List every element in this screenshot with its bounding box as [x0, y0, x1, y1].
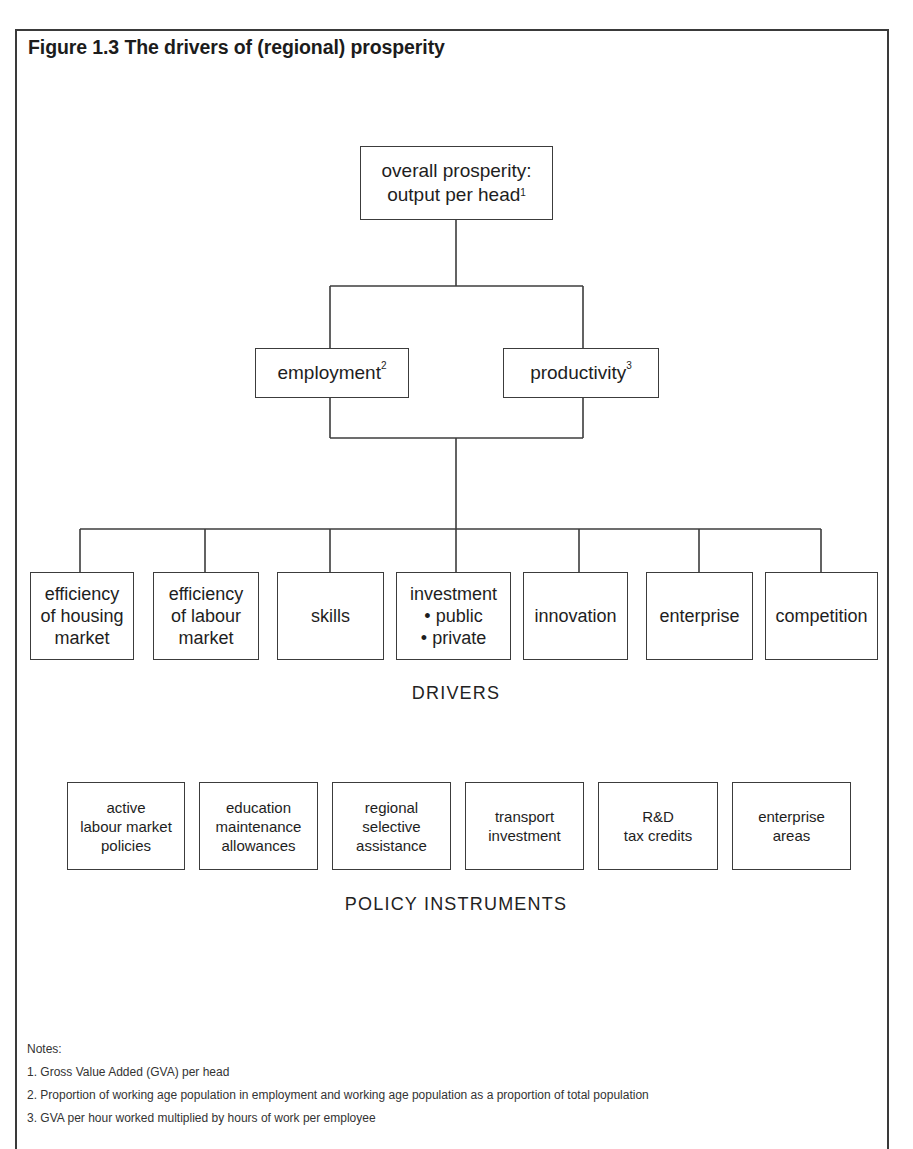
driver-line: investment — [410, 583, 497, 605]
driver-labour-market-box: efficiency of labour market — [153, 572, 259, 660]
footnote-ref-3: 3 — [626, 360, 632, 371]
employment-label: employment — [277, 362, 381, 383]
note-3: 3. GVA per hour worked multiplied by hou… — [27, 1109, 649, 1132]
policy-line: maintenance — [216, 817, 302, 836]
policy-line: active — [106, 798, 145, 817]
policy-line: investment — [488, 826, 561, 845]
policy-line: policies — [101, 836, 151, 855]
policy-line: regional — [365, 798, 418, 817]
driver-investment-box: investment • public • private — [396, 572, 511, 660]
driver-line: efficiency — [169, 583, 244, 605]
note-1: 1. Gross Value Added (GVA) per head — [27, 1063, 649, 1086]
footnote-ref-2: 2 — [381, 360, 387, 371]
policy-line: R&D — [642, 807, 674, 826]
drivers-label: DRIVERS — [356, 683, 556, 704]
overall-prosperity-box: overall prosperity: output per head1 — [360, 146, 553, 220]
driver-housing-market-box: efficiency of housing market — [30, 572, 134, 660]
driver-line: • public — [424, 605, 482, 627]
driver-line: innovation — [534, 605, 616, 627]
policy-line: enterprise — [758, 807, 825, 826]
driver-line: enterprise — [659, 605, 739, 627]
employment-box: employment2 — [255, 348, 409, 398]
driver-skills-box: skills — [277, 572, 384, 660]
policy-transport-investment-box: transport investment — [465, 782, 584, 870]
driver-line: of housing — [40, 605, 123, 627]
footnote-ref-1: 1 — [520, 187, 526, 198]
policy-line: areas — [773, 826, 811, 845]
policy-rd-tax-credits-box: R&D tax credits — [598, 782, 718, 870]
policy-active-labour-market-box: active labour market policies — [67, 782, 185, 870]
policy-line: allowances — [221, 836, 295, 855]
driver-competition-box: competition — [765, 572, 878, 660]
policy-line: tax credits — [624, 826, 692, 845]
policy-education-maintenance-box: education maintenance allowances — [199, 782, 318, 870]
driver-enterprise-box: enterprise — [646, 572, 753, 660]
top-box-line1: overall prosperity: — [382, 159, 532, 183]
driver-line: market — [178, 627, 233, 649]
policy-instruments-label: POLICY INSTRUMENTS — [306, 894, 606, 915]
policy-line: assistance — [356, 836, 427, 855]
policy-line: education — [226, 798, 291, 817]
policy-regional-selective-box: regional selective assistance — [332, 782, 451, 870]
driver-line: competition — [775, 605, 867, 627]
notes-heading: Notes: — [27, 1040, 649, 1063]
policy-line: labour market — [80, 817, 172, 836]
productivity-box: productivity3 — [503, 348, 659, 398]
driver-line: market — [54, 627, 109, 649]
policy-enterprise-areas-box: enterprise areas — [732, 782, 851, 870]
note-2: 2. Proportion of working age population … — [27, 1086, 649, 1109]
top-box-line2: output per head1 — [387, 183, 526, 207]
driver-innovation-box: innovation — [523, 572, 628, 660]
driver-line: skills — [311, 605, 350, 627]
policy-line: transport — [495, 807, 554, 826]
driver-line: • private — [421, 627, 486, 649]
notes: Notes: 1. Gross Value Added (GVA) per he… — [27, 1040, 649, 1132]
driver-line: efficiency — [45, 583, 120, 605]
productivity-label: productivity — [530, 362, 626, 383]
policy-line: selective — [362, 817, 420, 836]
driver-line: of labour — [171, 605, 241, 627]
